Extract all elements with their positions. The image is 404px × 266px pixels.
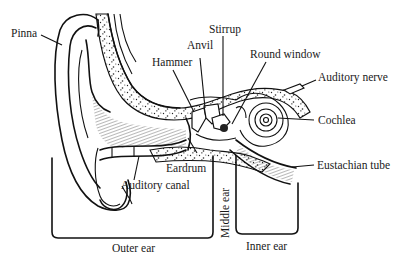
eustachian-tube-leader: [292, 165, 314, 167]
label-hammer: Hammer: [152, 56, 192, 68]
label-outer-ear: Outer ear: [112, 242, 155, 254]
auditory-nerve-shape: [284, 84, 304, 94]
label-auditory-canal: Auditory canal: [121, 179, 190, 192]
label-stirrup: Stirrup: [209, 23, 241, 36]
labels: Pinna Hammer Anvil Stirrup Round window …: [11, 23, 390, 254]
round-window-shape: [220, 124, 228, 132]
label-round-window: Round window: [250, 48, 321, 60]
label-anvil: Anvil: [187, 39, 213, 51]
ear-anatomy-diagram: Pinna Hammer Anvil Stirrup Round window …: [0, 0, 404, 266]
label-eustachian-tube: Eustachian tube: [317, 159, 390, 171]
label-cochlea: Cochlea: [318, 114, 356, 126]
label-auditory-nerve: Auditory nerve: [318, 71, 388, 84]
auditory-canal-leader: [134, 156, 139, 180]
label-inner-ear: Inner ear: [246, 240, 287, 252]
eardrum-shape: [186, 118, 190, 150]
label-pinna: Pinna: [11, 27, 37, 39]
anvil-leader: [200, 58, 205, 108]
hammer-leader: [173, 70, 194, 112]
label-eardrum: Eardrum: [166, 162, 206, 174]
label-middle-ear: Middle ear: [219, 188, 231, 238]
auditory-nerve-leader: [302, 80, 316, 86]
